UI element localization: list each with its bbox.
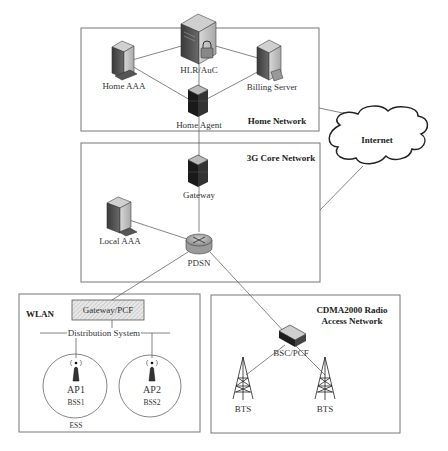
local-aaa-server-icon [107,197,137,236]
billing-server-label: Billing Server [247,82,298,92]
local-aaa-label: Local AAA [99,236,141,246]
billing-server-icon [257,40,283,81]
distribution-system-label: Distribution System [67,328,141,338]
home-aaa-server-icon [112,41,137,80]
internet-label: Internet [361,135,393,145]
ap1-antenna-icon [71,360,82,381]
bts1-label: BTS [235,404,252,414]
home-aaa-label: Home AAA [102,81,145,91]
bts1-tower-icon [233,357,253,400]
wlan-title: WLAN [26,309,54,319]
home-agent-label: Home Agent [176,120,222,130]
gateway-pcf-label: Gateway/PCF [83,305,134,315]
cdma-title-line1: CDMA2000 Radio [316,305,387,315]
home-agent-tower-icon [188,85,208,117]
ap2-antenna-icon [147,360,158,381]
bss1-label: BSS1 [67,398,84,408]
cdma-title-line2: Access Network [321,316,382,326]
bts2-label: BTS [317,404,334,414]
home-network-title: Home Network [248,116,307,126]
bsc-pcf-label: BSC/PCF [273,348,309,358]
ap1-label: AP1 [67,385,85,395]
bsc-pcf-switch-icon [279,325,306,347]
gateway-tower-icon [188,155,208,187]
pdsn-router-icon [186,234,212,254]
hlr-auc-server-icon [181,14,216,64]
ess-label: ESS [70,421,83,431]
pdsn-label: PDSN [187,258,210,268]
core-network-title: 3G Core Network [247,153,315,163]
bts2-tower-icon [315,357,335,400]
hlr-auc-label: HLR/AuC [180,65,218,75]
gateway-label: Gateway [183,190,215,200]
bss2-label: BSS2 [143,398,160,408]
ap2-label: AP2 [143,385,161,395]
